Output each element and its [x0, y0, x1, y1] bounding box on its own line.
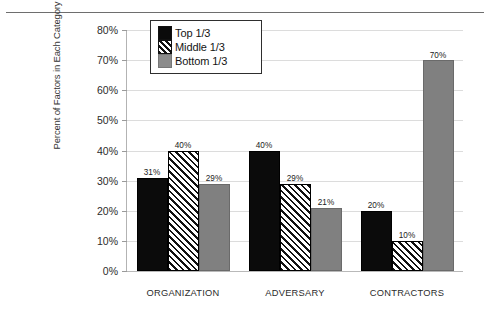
bar-slot: 10%	[392, 30, 423, 271]
bar-value-label: 29%	[206, 174, 222, 183]
bar-group: 20%10%70%CONTRACTORS	[351, 30, 463, 271]
y-tick-label: 50%	[97, 114, 118, 126]
bar[interactable]: 70%	[423, 60, 454, 271]
x-category-label: ADVERSARY	[265, 288, 324, 298]
bar-value-label: 31%	[144, 168, 160, 177]
y-tick-mark	[122, 271, 127, 272]
bar-value-label: 20%	[368, 201, 384, 210]
bar[interactable]: 20%	[361, 211, 392, 271]
bar-value-label: 21%	[318, 198, 334, 207]
bar-slot: 20%	[361, 30, 392, 271]
bar-value-label: 40%	[256, 141, 272, 150]
legend-item-label: Top 1/3	[175, 27, 210, 39]
bar-slot: 29%	[280, 30, 311, 271]
legend-item-label: Middle 1/3	[175, 41, 225, 53]
legend-item[interactable]: Middle 1/3	[158, 40, 255, 54]
y-tick-label: 30%	[97, 175, 118, 187]
bar-value-label: 29%	[287, 174, 303, 183]
y-tick-label: 80%	[97, 24, 118, 36]
bar[interactable]: 29%	[199, 184, 230, 271]
bar[interactable]: 40%	[249, 151, 280, 272]
bar[interactable]: 40%	[168, 151, 199, 272]
y-tick-label: 20%	[97, 205, 118, 217]
bar-group-bars: 20%10%70%	[351, 30, 463, 271]
x-category-label: ORGANIZATION	[146, 288, 219, 298]
y-tick-label: 40%	[97, 145, 118, 157]
bar-value-label: 10%	[399, 231, 415, 240]
bar-value-label: 70%	[430, 51, 446, 60]
bar-chart-figure: Percent of Factors in Each Category 0%10…	[0, 0, 490, 320]
solid-gray-swatch-icon	[158, 54, 172, 68]
chart-legend: Top 1/3Middle 1/3Bottom 1/3	[150, 20, 262, 74]
bar[interactable]: 10%	[392, 241, 423, 271]
diagonal-hatch-swatch-icon	[158, 40, 172, 54]
solid-black-swatch-icon	[158, 26, 172, 40]
y-tick-label: 0%	[103, 265, 118, 277]
x-category-label: CONTRACTORS	[370, 288, 444, 298]
legend-item[interactable]: Top 1/3	[158, 26, 255, 40]
bar-value-label: 40%	[175, 141, 191, 150]
legend-item-label: Bottom 1/3	[175, 55, 227, 67]
bar[interactable]: 21%	[311, 208, 342, 271]
bar-slot: 21%	[311, 30, 342, 271]
y-tick-label: 10%	[97, 235, 118, 247]
y-axis-title: Percent of Factors in Each Category	[51, 0, 62, 176]
bar[interactable]: 29%	[280, 184, 311, 271]
y-tick-label: 70%	[97, 54, 118, 66]
y-tick-label: 60%	[97, 84, 118, 96]
legend-item[interactable]: Bottom 1/3	[158, 54, 255, 68]
axis-baseline	[127, 271, 463, 272]
bar[interactable]: 31%	[137, 178, 168, 271]
bar-slot: 70%	[423, 30, 454, 271]
